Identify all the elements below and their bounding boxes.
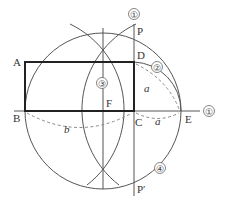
label-f-point: F <box>106 97 112 109</box>
marker-step1-horizontal: ① <box>204 106 215 117</box>
marker-step1-vertical: ① <box>129 9 140 20</box>
svg-text:①: ① <box>130 10 138 20</box>
dashed-arc-b <box>27 113 132 128</box>
label-c-point: C <box>135 116 142 128</box>
svg-text:①: ① <box>205 107 213 117</box>
geometric-diagram: A B C D E F P P′ a a b ① ① ② ③ ④ <box>0 0 225 206</box>
label-a-horizontal: a <box>155 115 161 127</box>
marker-step3: ③ <box>97 78 108 89</box>
marker-step2: ② <box>152 62 163 73</box>
svg-text:④: ④ <box>156 164 164 174</box>
svg-text:②: ② <box>153 63 161 73</box>
label-p-prime-point: P′ <box>137 183 146 195</box>
label-d-point: D <box>137 49 145 61</box>
label-p-point: P <box>137 25 143 37</box>
label-a-point: A <box>13 56 21 68</box>
marker-step4: ④ <box>155 163 166 174</box>
label-e-point: E <box>185 113 192 125</box>
label-b: b <box>64 123 70 135</box>
svg-text:③: ③ <box>98 79 106 89</box>
label-b-point: B <box>13 112 20 124</box>
label-a-vertical: a <box>144 82 150 94</box>
rectangle-abcd <box>25 62 134 111</box>
